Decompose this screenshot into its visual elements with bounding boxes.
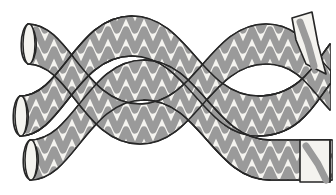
woven-ribbon-braid-figure: Woven ribbon braid Three wide ribbons pr…: [0, 0, 336, 195]
ribbon-end-cut-right: [300, 140, 330, 182]
roll-cap-ellipse-mid-left: [15, 96, 27, 136]
roll-cap-ellipse-top-left: [23, 24, 35, 64]
ribbon-end-roll-bottom-left: [23, 140, 38, 180]
ribbon-end-roll-mid-left: [13, 96, 28, 136]
ribbon-end-roll-top-left: [21, 24, 36, 64]
illustration-canvas: Woven ribbon braid Three wide ribbons pr…: [0, 0, 336, 195]
roll-cap-ellipse-bottom-left: [25, 140, 37, 180]
